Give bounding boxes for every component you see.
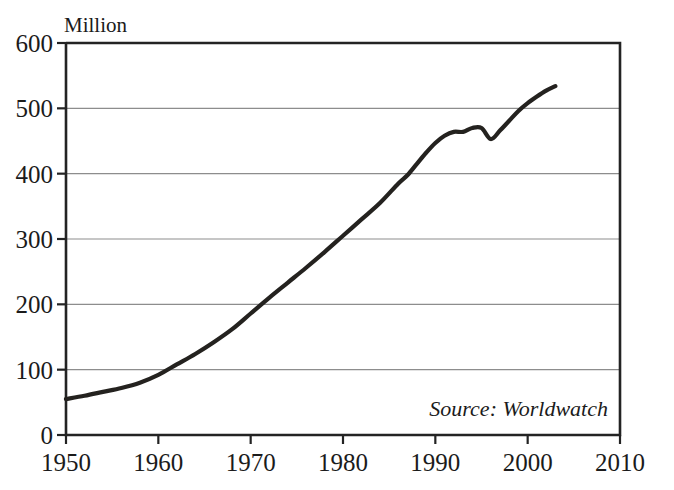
x-tick-label: 1950 <box>41 449 91 476</box>
x-tick-label: 1990 <box>410 449 460 476</box>
y-tick-label: 200 <box>16 291 54 318</box>
y-tick-label: 300 <box>16 226 54 253</box>
y-tick-label: 0 <box>41 422 54 449</box>
chart-container: 0100200300400500600 19501960197019801990… <box>0 0 674 490</box>
y-tick-label: 100 <box>16 357 54 384</box>
y-tick-group <box>57 43 66 435</box>
y-tick-label: 600 <box>16 30 54 57</box>
source-annotation: Source: Worldwatch <box>429 396 608 421</box>
x-tick-label: 2010 <box>595 449 645 476</box>
x-axis-labels: 1950196019701980199020002010 <box>41 449 645 476</box>
y-tick-label: 400 <box>16 161 54 188</box>
x-tick-label: 1970 <box>226 449 276 476</box>
y-tick-label: 500 <box>16 95 54 122</box>
x-tick-label: 1980 <box>318 449 368 476</box>
y-axis-title: Million <box>64 13 128 37</box>
y-axis-labels: 0100200300400500600 <box>16 30 54 449</box>
gridline-group <box>66 108 620 369</box>
x-tick-label: 1960 <box>133 449 183 476</box>
x-tick-group <box>66 435 620 444</box>
data-series-line <box>66 86 555 399</box>
x-tick-label: 2000 <box>503 449 553 476</box>
line-chart: 0100200300400500600 19501960197019801990… <box>0 0 674 490</box>
